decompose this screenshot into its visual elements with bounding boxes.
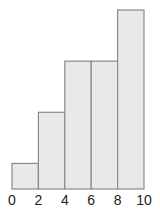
histogram-chart: 0246810: [0, 0, 160, 216]
x-tick-label: 8: [114, 192, 122, 208]
histogram-bar: [65, 61, 91, 189]
x-tick-label: 6: [87, 192, 95, 208]
histogram-bar: [38, 112, 64, 189]
bars-group: [12, 10, 144, 189]
x-axis-ticks: 0246810: [8, 192, 152, 208]
x-tick-label: 4: [61, 192, 69, 208]
histogram-bar: [91, 61, 117, 189]
histogram-bar: [12, 163, 38, 189]
x-tick-label: 0: [8, 192, 16, 208]
histogram-bar: [118, 10, 144, 189]
x-tick-label: 2: [35, 192, 43, 208]
x-tick-label: 10: [136, 192, 152, 208]
